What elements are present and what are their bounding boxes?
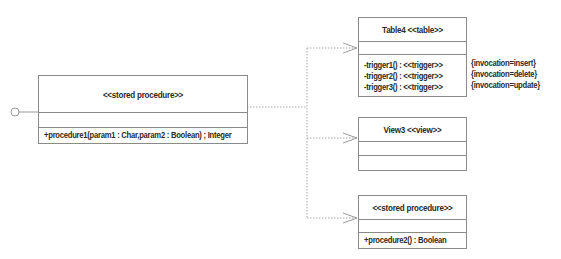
operations-compartment: +procedure2() : Boolean — [359, 232, 466, 248]
attributes-compartment — [359, 219, 466, 232]
class-name: <<stored procedure>> — [55, 76, 232, 112]
operation: -trigger2() : <<trigger>> — [364, 71, 451, 82]
class-box-view3[interactable]: View3 <<view>> — [358, 117, 467, 171]
dependency-arrowheads — [343, 43, 357, 223]
class-box-stored-procedure-2[interactable]: <<stored procedure>> +procedure2() : Boo… — [358, 195, 467, 249]
class-box-stored-procedure-main[interactable]: <<stored procedure>> +procedure1(param1 … — [38, 75, 248, 144]
operation: +procedure1(param1 : Char,param2 : Boole… — [44, 130, 217, 141]
operations-compartment: +procedure1(param1 : Char,param2 : Boole… — [39, 127, 247, 143]
class-name: View3 <<view>> — [367, 118, 458, 141]
class-name: <<stored procedure>> — [367, 196, 458, 219]
class-name: Table4 <<table>> — [367, 18, 458, 41]
attributes-compartment — [359, 141, 466, 155]
operation: -trigger3() : <<trigger>> — [364, 82, 451, 93]
dependency-connectors — [247, 48, 357, 218]
tagged-value: {invocation=delete} — [471, 69, 540, 80]
tagged-values: {invocation=insert} {invocation=delete} … — [471, 58, 552, 91]
class-box-table4[interactable]: Table4 <<table>> -trigger1() : <<trigger… — [358, 17, 467, 97]
attributes-compartment — [359, 41, 466, 54]
operations-compartment — [359, 155, 466, 170]
interface-lollipop-icon — [11, 108, 38, 116]
tagged-value: {invocation=insert} — [471, 58, 540, 69]
operation: +procedure2() : Boolean — [364, 235, 451, 246]
operations-compartment: -trigger1() : <<trigger>> -trigger2() : … — [359, 54, 466, 96]
operation: -trigger1() : <<trigger>> — [364, 60, 451, 71]
uml-diagram-canvas: <<stored procedure>> +procedure1(param1 … — [0, 0, 561, 259]
tagged-value: {invocation=update} — [471, 80, 540, 91]
attributes-compartment — [39, 112, 247, 127]
